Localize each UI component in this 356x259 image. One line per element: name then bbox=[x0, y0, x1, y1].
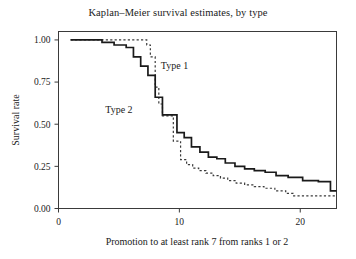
x-tick-label: 20 bbox=[295, 217, 305, 227]
series-annotations: Type 1Type 2 bbox=[105, 60, 188, 116]
series-line-type-2 bbox=[71, 40, 337, 191]
series-lines bbox=[71, 40, 337, 196]
x-axis-ticks: 01020 bbox=[56, 209, 305, 227]
y-tick-label: 0.50 bbox=[34, 120, 51, 130]
plot-area: 0.000.250.500.751.00 01020 Type 1Type 2 … bbox=[0, 0, 356, 259]
chart-figure: Kaplan–Meier survival estimates, by type… bbox=[0, 0, 356, 259]
x-axis-title: Promotion to at least rank 7 from ranks … bbox=[106, 236, 289, 247]
y-axis-title: Survival rate bbox=[10, 94, 21, 146]
x-tick-label: 10 bbox=[175, 217, 185, 227]
y-tick-label: 1.00 bbox=[34, 35, 51, 45]
y-tick-label: 0.00 bbox=[34, 204, 51, 214]
annotation-type-1: Type 1 bbox=[161, 60, 188, 71]
y-tick-label: 0.75 bbox=[34, 77, 51, 87]
y-tick-label: 0.25 bbox=[34, 162, 51, 172]
x-tick-label: 0 bbox=[56, 217, 61, 227]
annotation-type-2: Type 2 bbox=[105, 104, 132, 115]
y-axis-ticks: 0.000.250.500.751.00 bbox=[34, 35, 59, 214]
series-line-type-1 bbox=[71, 40, 337, 196]
plot-frame bbox=[59, 32, 337, 209]
plot-border bbox=[59, 32, 337, 209]
